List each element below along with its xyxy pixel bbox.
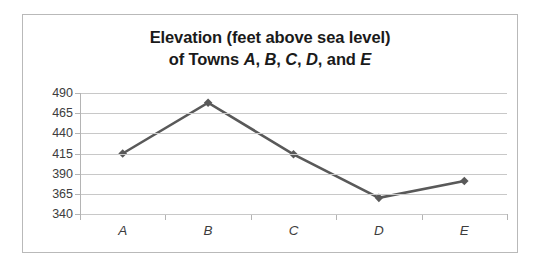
y-axis-tick-label: 465 — [52, 106, 73, 120]
x-axis-tick-label: A — [118, 223, 127, 238]
gridline — [80, 154, 507, 155]
gridline — [80, 214, 507, 215]
y-axis-tick-label: 340 — [52, 207, 73, 221]
y-axis-tick-mark — [75, 194, 81, 195]
x-axis-tick-mark — [422, 215, 423, 220]
gridline — [80, 133, 507, 134]
y-axis-tick-mark — [75, 93, 81, 94]
y-axis-tick-label: 415 — [52, 147, 73, 161]
y-axis-tick-mark — [75, 174, 81, 175]
x-axis-tick-labels: ABCDE — [80, 223, 507, 245]
plot-area — [80, 93, 507, 214]
x-axis-tick-mark — [251, 215, 252, 220]
gridline — [80, 174, 507, 175]
x-axis-tick-mark — [507, 215, 508, 220]
x-axis-tick-label: C — [289, 223, 299, 238]
y-axis-tick-label: 440 — [52, 126, 73, 140]
x-axis-tick-mark — [165, 215, 166, 220]
y-axis-tick-mark — [75, 154, 81, 155]
chart-frame: Elevation (feet above sea level) of Town… — [22, 14, 518, 253]
gridline — [80, 113, 507, 114]
gridline — [80, 93, 507, 94]
x-axis-tick-label: B — [204, 223, 213, 238]
y-axis-tick-label: 490 — [52, 86, 73, 100]
data-point-marker-e — [460, 177, 469, 186]
data-point-marker-d — [375, 194, 384, 203]
y-axis-tick-label: 390 — [52, 167, 73, 181]
x-axis-tick-label: E — [460, 223, 469, 238]
x-axis-tick-label: D — [374, 223, 384, 238]
plot-wrapper: 490465440415390365340 ABCDE — [23, 15, 519, 254]
y-axis-tick-label: 365 — [52, 187, 73, 201]
x-axis-tick-mark — [336, 215, 337, 220]
y-axis-tick-labels: 490465440415390365340 — [27, 93, 73, 214]
y-axis-tick-mark — [75, 113, 81, 114]
gridline — [80, 194, 507, 195]
y-axis-tick-mark — [75, 133, 81, 134]
x-axis-tick-mark — [80, 215, 81, 220]
